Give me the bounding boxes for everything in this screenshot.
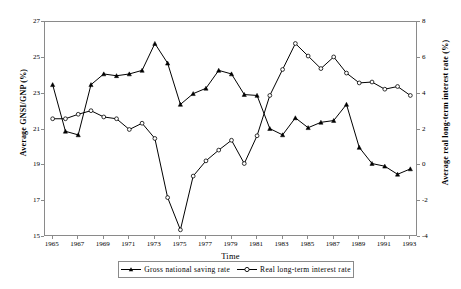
data-point-marker — [217, 68, 221, 72]
data-point-marker — [268, 127, 272, 131]
right-tick-label: 8 — [422, 17, 444, 25]
x-tick-label: 1965 — [39, 240, 65, 248]
plot-area — [44, 21, 417, 236]
data-point-marker — [230, 138, 234, 142]
x-tick-label: 1991 — [371, 240, 397, 248]
data-point-marker — [255, 134, 259, 138]
data-point-marker — [64, 117, 68, 121]
x-tick-label: 1973 — [141, 240, 167, 248]
x-tick-label: 1993 — [396, 240, 422, 248]
data-point-marker — [153, 137, 157, 141]
x-tick-label: 1979 — [218, 240, 244, 248]
left-tick-label: 23 — [18, 89, 40, 97]
x-tick-label: 1971 — [115, 240, 141, 248]
data-point-marker — [140, 68, 144, 72]
data-point-marker — [166, 196, 170, 200]
data-point-marker — [51, 83, 55, 87]
data-point-marker — [217, 148, 221, 152]
data-point-marker — [179, 228, 183, 232]
left-tick-label: 17 — [18, 196, 40, 204]
series-canvas — [45, 22, 418, 237]
data-point-marker — [51, 117, 55, 121]
right-tick-label: -4 — [422, 232, 444, 240]
x-tick-label: 1967 — [64, 240, 90, 248]
data-point-marker — [115, 117, 119, 121]
data-point-marker — [293, 42, 297, 46]
x-axis-title: Time — [0, 251, 461, 261]
left-tick-label: 25 — [18, 53, 40, 61]
chart-legend: Gross national saving rateReal long-term… — [118, 261, 354, 278]
data-point-marker — [345, 71, 349, 75]
x-tick-label: 1983 — [269, 240, 295, 248]
right-tick-label: 0 — [422, 160, 444, 168]
left-tickmark — [41, 236, 44, 237]
data-point-marker — [281, 68, 285, 72]
x-tick-label: 1985 — [294, 240, 320, 248]
data-point-marker — [408, 167, 412, 171]
legend-entry[interactable]: Gross national saving rate — [121, 265, 230, 274]
series-1 — [51, 41, 413, 176]
left-tick-label: 21 — [18, 125, 40, 133]
series-2 — [51, 42, 412, 232]
legend-open-circle-icon — [237, 265, 257, 274]
data-point-marker — [268, 94, 272, 98]
legend-label: Gross national saving rate — [144, 265, 230, 274]
data-point-marker — [204, 159, 208, 163]
left-tick-label: 15 — [18, 232, 40, 240]
left-tick-label: 27 — [18, 17, 40, 25]
data-point-marker — [89, 109, 93, 113]
data-point-marker — [293, 116, 297, 120]
x-tick-label: 1975 — [166, 240, 192, 248]
x-tick-label: 1989 — [345, 240, 371, 248]
right-tick-label: 2 — [422, 125, 444, 133]
data-point-marker — [396, 85, 400, 89]
x-tick-label: 1987 — [320, 240, 346, 248]
legend-label: Real long-term interest rate — [260, 265, 351, 274]
legend-entry[interactable]: Real long-term interest rate — [237, 265, 351, 274]
data-point-marker — [153, 41, 157, 45]
data-point-marker — [383, 87, 387, 91]
data-point-marker — [332, 55, 336, 59]
data-point-marker — [102, 115, 106, 119]
data-point-marker — [140, 121, 144, 125]
legend-filled-triangle-icon — [121, 265, 141, 274]
data-point-marker — [127, 128, 131, 132]
x-tick-label: 1981 — [243, 240, 269, 248]
right-tick-label: 4 — [422, 89, 444, 97]
series-line — [53, 44, 411, 175]
chart-figure: Average GNSI/GNP (%) Average real long-t… — [0, 0, 461, 289]
x-tick-label: 1977 — [192, 240, 218, 248]
data-point-marker — [408, 94, 412, 98]
right-tick-label: 6 — [422, 53, 444, 61]
data-point-marker — [242, 162, 246, 166]
data-point-marker — [76, 112, 80, 116]
left-tick-label: 19 — [18, 160, 40, 168]
data-point-marker — [191, 174, 195, 178]
data-point-marker — [319, 67, 323, 71]
data-point-marker — [370, 80, 374, 84]
x-tick-label: 1969 — [90, 240, 116, 248]
data-point-marker — [357, 81, 361, 85]
data-point-marker — [344, 102, 348, 106]
data-point-marker — [357, 145, 361, 149]
right-tick-label: -2 — [422, 196, 444, 204]
data-point-marker — [306, 54, 310, 58]
